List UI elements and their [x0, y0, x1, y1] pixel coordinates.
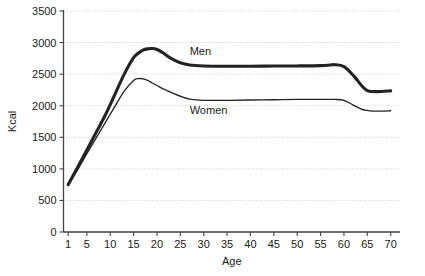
x-tick-label-1: 1 [65, 238, 71, 250]
x-tick-label-50: 50 [291, 238, 303, 250]
x-tick-label-35: 35 [221, 238, 233, 250]
x-axis-title: Age [222, 255, 242, 267]
y-axis-title: Kcal [6, 111, 18, 132]
y-tick-label-2000: 2000 [32, 100, 56, 112]
kcal-by-age-chart: 0500100015002000250030003500 15101520253… [0, 0, 425, 276]
y-tick-label-2500: 2500 [32, 68, 56, 80]
x-tick-label-40: 40 [244, 238, 256, 250]
chart-canvas: 0500100015002000250030003500 15101520253… [0, 0, 425, 276]
x-tick-label-5: 5 [84, 238, 90, 250]
x-tick-label-15: 15 [127, 238, 139, 250]
data-series [68, 49, 390, 185]
x-tick-label-45: 45 [268, 238, 280, 250]
series-label-women: Women [190, 104, 228, 116]
x-tick-label-25: 25 [174, 238, 186, 250]
y-tick-label-500: 500 [38, 194, 56, 206]
x-axis-ticks: 1510152025303540455055606570 [65, 232, 397, 250]
x-tick-label-55: 55 [314, 238, 326, 250]
y-tick-label-3000: 3000 [32, 37, 56, 49]
y-axis-ticks: 0500100015002000250030003500 [32, 5, 63, 238]
series-label-men: Men [190, 45, 211, 57]
series-annotations: MenWomen [190, 45, 228, 116]
y-tick-label-0: 0 [50, 226, 56, 238]
y-tick-label-1000: 1000 [32, 163, 56, 175]
x-tick-label-70: 70 [385, 238, 397, 250]
x-tick-label-30: 30 [198, 238, 210, 250]
series-line-men [68, 49, 390, 185]
axes [64, 10, 401, 232]
x-tick-label-65: 65 [361, 238, 373, 250]
x-tick-label-20: 20 [151, 238, 163, 250]
y-tick-label-3500: 3500 [32, 5, 56, 17]
x-tick-label-60: 60 [338, 238, 350, 250]
gridlines [64, 11, 401, 232]
x-tick-label-10: 10 [104, 238, 116, 250]
y-tick-label-1500: 1500 [32, 131, 56, 143]
